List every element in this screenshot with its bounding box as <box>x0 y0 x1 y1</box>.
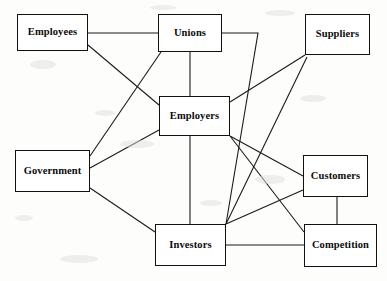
scan-artifact <box>120 140 154 148</box>
scan-artifact <box>30 60 56 69</box>
node-label-employees: Employees <box>28 27 77 38</box>
node-customers[interactable]: Customers <box>303 155 368 197</box>
scan-artifact <box>15 215 33 221</box>
scan-artifact <box>265 10 295 16</box>
scan-artifact <box>60 255 98 263</box>
node-competition[interactable]: Competition <box>304 224 377 267</box>
node-employers[interactable]: Employers <box>159 96 230 136</box>
node-label-suppliers: Suppliers <box>316 29 360 40</box>
node-investors[interactable]: Investors <box>155 224 226 266</box>
node-label-employers: Employers <box>170 111 219 122</box>
edge-employees-employers <box>88 45 159 105</box>
scan-artifact <box>300 95 326 102</box>
edge-employers-customers <box>230 136 303 176</box>
scan-artifact <box>95 110 115 116</box>
node-label-customers: Customers <box>311 171 360 182</box>
edge-government-investors <box>90 188 155 232</box>
scan-artifact <box>150 5 176 10</box>
edge-suppliers-employers <box>230 55 305 102</box>
diagram-canvas: Employees Unions Suppliers Employers Gov… <box>0 0 387 281</box>
scan-artifact <box>255 175 285 184</box>
node-unions[interactable]: Unions <box>158 14 222 52</box>
edge-employers-government <box>90 130 159 168</box>
node-suppliers[interactable]: Suppliers <box>305 14 370 55</box>
node-label-competition: Competition <box>312 240 369 251</box>
scan-artifact <box>200 200 222 206</box>
edge-customers-investors <box>226 190 303 224</box>
node-label-unions: Unions <box>174 28 206 39</box>
node-label-investors: Investors <box>169 240 211 251</box>
node-label-government: Government <box>24 166 82 177</box>
node-employees[interactable]: Employees <box>17 14 88 51</box>
node-government[interactable]: Government <box>15 150 90 192</box>
